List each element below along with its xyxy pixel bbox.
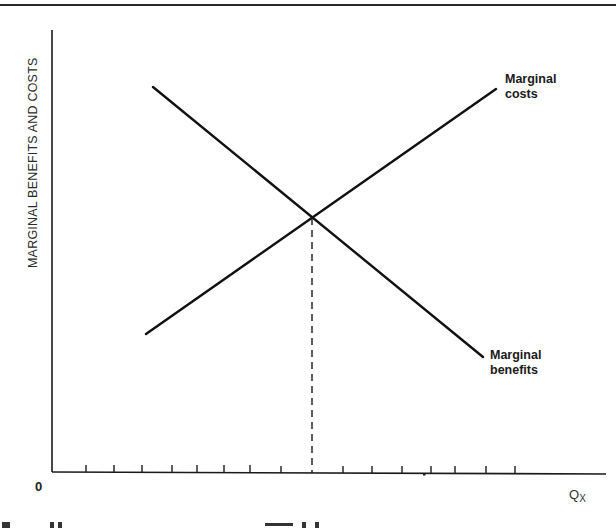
cropped-caption-fragment: [265, 523, 293, 526]
x-axis-label-subscript: X: [579, 493, 586, 504]
marginal-benefits-line: [153, 87, 483, 357]
cropped-caption-fragment: [302, 522, 306, 528]
marginal-costs-label-line2: costs: [505, 87, 556, 102]
marginal-benefits-label-line2: benefits: [490, 363, 541, 378]
marginal-costs-label-line1: Marginal: [505, 72, 556, 87]
cropped-caption-fragment: [2, 522, 10, 528]
marginal-costs-label: Marginal costs: [505, 72, 556, 102]
cropped-caption-fragment: [315, 522, 319, 528]
x-axis-label-main: Q: [569, 487, 579, 502]
y-axis-label: MARGINAL BENEFITS AND COSTS: [26, 57, 40, 268]
cropped-caption-fragment: [58, 522, 62, 528]
x-axis: [52, 472, 606, 474]
marginal-benefits-label-line1: Marginal: [490, 348, 541, 363]
cropped-caption-fragment: [50, 522, 54, 528]
origin-label: 0: [35, 479, 42, 494]
x-axis-label: QX: [569, 487, 586, 504]
marginal-benefits-label: Marginal benefits: [490, 348, 541, 378]
